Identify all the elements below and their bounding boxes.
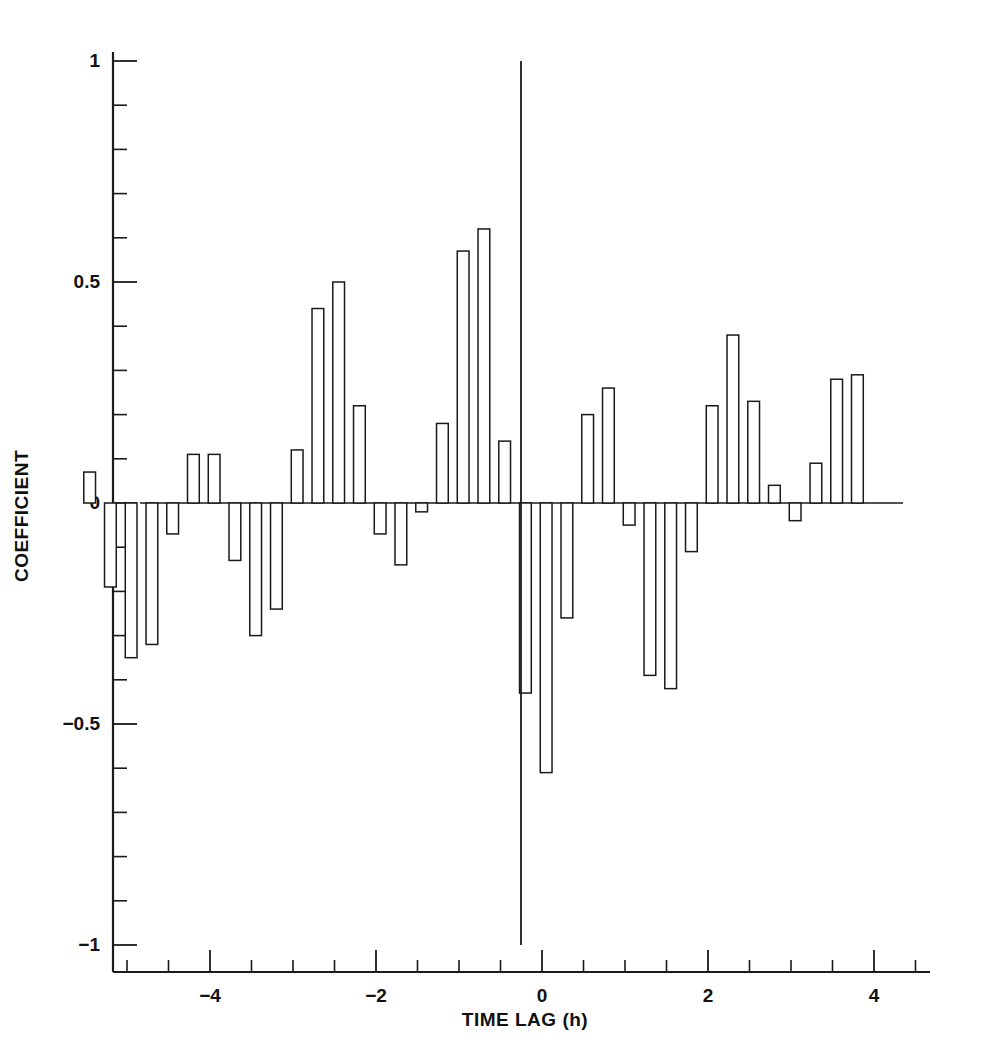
chart-figure: 10.50−0.5−1 −4−2024 TIME LAG (h) COEFFIC…: [0, 0, 983, 1058]
x-axis-tick-labels: −4−2024: [199, 985, 880, 1006]
bar: [105, 503, 117, 587]
bar: [582, 415, 594, 503]
bar: [208, 454, 220, 503]
bar: [789, 503, 801, 521]
bar-series: [84, 229, 864, 773]
bar: [686, 503, 698, 552]
bar: [499, 441, 511, 503]
bar: [354, 406, 366, 503]
bar: [84, 472, 96, 503]
bar: [623, 503, 635, 525]
bar: [291, 450, 303, 503]
bar: [167, 503, 179, 534]
bar: [540, 503, 552, 773]
x-tick-label: 2: [703, 985, 714, 1006]
bar: [644, 503, 656, 675]
bar: [603, 388, 615, 503]
bar: [437, 423, 449, 503]
x-tick-label: −2: [365, 985, 387, 1006]
bar: [416, 503, 428, 512]
bar: [333, 282, 345, 503]
y-tick-label: −1: [78, 934, 100, 955]
x-tick-label: 0: [537, 985, 548, 1006]
bar: [374, 503, 386, 534]
bar: [312, 309, 324, 503]
bar: [250, 503, 262, 636]
bar: [727, 335, 739, 503]
bar: [748, 401, 760, 503]
correlogram-chart: 10.50−0.5−1 −4−2024 TIME LAG (h) COEFFIC…: [0, 0, 983, 1058]
bar: [769, 485, 781, 503]
bar: [271, 503, 283, 609]
bar: [665, 503, 677, 689]
bar: [831, 379, 843, 503]
bar: [125, 503, 137, 658]
bar: [810, 463, 822, 503]
bar: [146, 503, 158, 644]
x-axis-ticks: [127, 950, 916, 972]
y-tick-label: 1: [89, 50, 100, 71]
y-tick-label: 0.5: [74, 271, 101, 292]
bar: [706, 406, 718, 503]
x-tick-label: 4: [869, 985, 880, 1006]
bar: [395, 503, 407, 565]
y-axis-title: COEFFICIENT: [11, 450, 32, 582]
bar: [229, 503, 241, 560]
bar: [478, 229, 490, 503]
x-tick-label: −4: [199, 985, 221, 1006]
bar: [457, 251, 469, 503]
y-tick-label: −0.5: [62, 713, 100, 734]
bar: [188, 454, 200, 503]
bar: [561, 503, 573, 618]
x-axis-title: TIME LAG (h): [462, 1009, 588, 1030]
bar: [852, 375, 864, 503]
